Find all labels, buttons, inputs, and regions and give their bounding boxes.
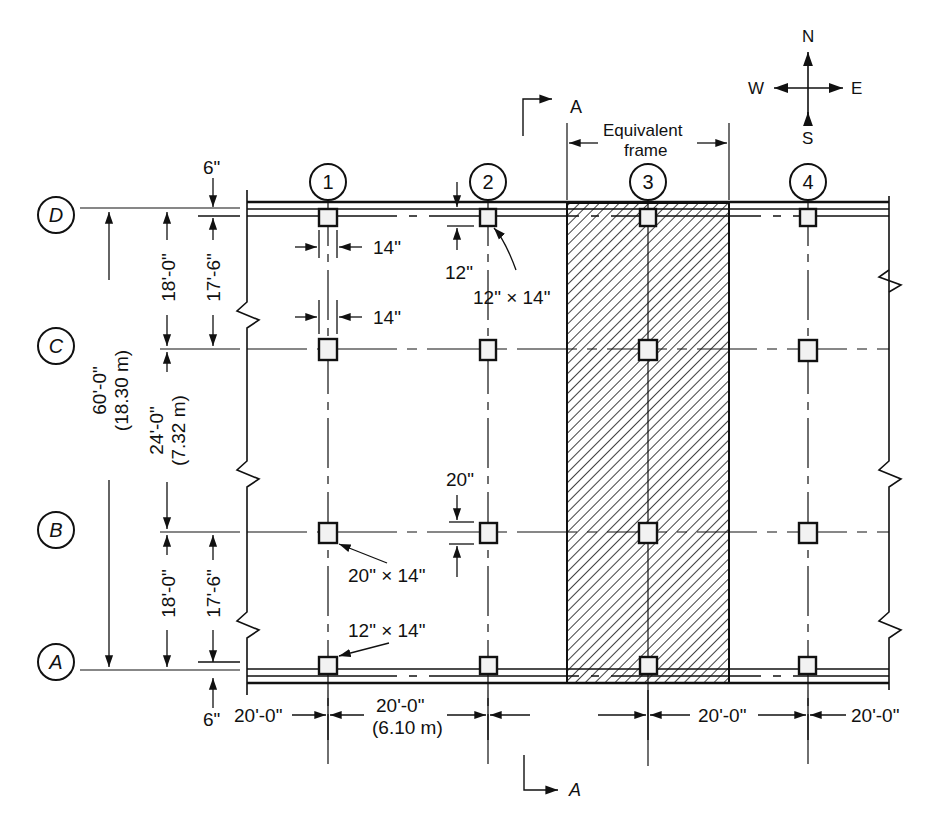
section-label-top: A bbox=[570, 98, 582, 116]
dim-overall: 60'-0" (18.30 m) bbox=[90, 341, 131, 441]
column-2C bbox=[480, 340, 496, 360]
annot-interior-column-size: 20" × 14" bbox=[348, 566, 425, 585]
compass-south-label: S bbox=[802, 130, 813, 147]
row-label-B: B bbox=[46, 520, 66, 540]
column-1C bbox=[319, 339, 337, 360]
row-label-C: C bbox=[46, 336, 66, 356]
annot-edge-beam-depth: 12" bbox=[445, 263, 473, 282]
column-4B bbox=[799, 523, 817, 543]
dim-DC: 18'-0" bbox=[159, 238, 178, 318]
dim-top-offset: 6" bbox=[203, 158, 220, 177]
dim-overall-value: 60'-0" bbox=[90, 341, 109, 441]
column-4A bbox=[799, 657, 816, 674]
column-4C bbox=[799, 340, 817, 361]
dim-CB-value: 24'-0" bbox=[147, 381, 166, 481]
dim-bottom-offset: 6" bbox=[203, 710, 220, 729]
row-label-A: A bbox=[46, 652, 66, 672]
section-label-bottom: A bbox=[569, 781, 581, 799]
column-label-3: 3 bbox=[638, 172, 658, 192]
column-4D bbox=[800, 209, 816, 226]
equivalent-frame-label-line1: Equivalent bbox=[603, 122, 682, 139]
dim-overall-metric: (18.30 m) bbox=[112, 341, 131, 441]
column-2A bbox=[480, 657, 497, 674]
annot-col-width-mid: 14" bbox=[373, 308, 401, 327]
row-gridlines bbox=[80, 208, 889, 670]
column-label-1: 1 bbox=[318, 172, 338, 192]
annot-bottom-edge-column-size: 12" × 14" bbox=[348, 621, 425, 640]
column-3B bbox=[639, 523, 657, 543]
column-2D bbox=[480, 209, 496, 226]
compass-north-label: N bbox=[802, 28, 814, 45]
dim-span-12: 20'-0" bbox=[376, 696, 424, 715]
dim-left-overhang: 20'-0" bbox=[234, 706, 282, 725]
column-label-2: 2 bbox=[478, 172, 498, 192]
section-marker-top[interactable] bbox=[523, 99, 552, 136]
dim-CB: 24'-0" (7.32 m) bbox=[147, 381, 188, 481]
dim-BA: 18'-0" bbox=[159, 554, 178, 634]
dim-right-overhang: 20'-0" bbox=[851, 706, 899, 725]
dim-CB-metric: (7.32 m) bbox=[169, 381, 188, 481]
annot-interior-column-depth: 20" bbox=[446, 470, 474, 489]
column-1B bbox=[319, 523, 337, 543]
dim-span-34: 20'-0" bbox=[698, 706, 746, 725]
column-2B bbox=[480, 523, 497, 543]
dim-span-12-metric: (6.10 m) bbox=[372, 718, 443, 737]
dim-clear-BA: 17'-6" bbox=[204, 554, 223, 634]
plan-drawing bbox=[0, 0, 932, 833]
compass-icon bbox=[774, 52, 843, 125]
compass-west-label: W bbox=[748, 80, 764, 97]
floor-plan-diagram: N S E W A A Equivalent frame 1 2 3 4 D C… bbox=[0, 0, 932, 833]
equivalent-frame-label-line2: frame bbox=[624, 142, 667, 159]
column-1A bbox=[319, 657, 337, 674]
column-1D bbox=[319, 209, 337, 226]
dim-clear-DC: 17'-6" bbox=[204, 238, 223, 318]
row-label-D: D bbox=[46, 205, 66, 225]
column-3D bbox=[640, 209, 656, 226]
column-label-4: 4 bbox=[798, 172, 818, 192]
section-marker-bottom[interactable] bbox=[524, 755, 558, 790]
annot-edge-column-size: 12" × 14" bbox=[473, 288, 550, 307]
compass-east-label: E bbox=[851, 80, 862, 97]
column-3A bbox=[640, 657, 657, 674]
column-3C bbox=[639, 340, 657, 360]
annot-col-width-top: 14" bbox=[373, 238, 401, 257]
